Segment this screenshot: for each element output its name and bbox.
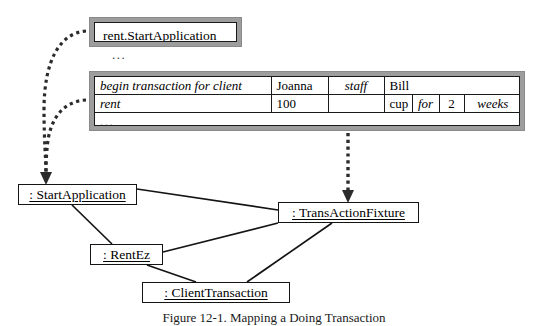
- object-rentez[interactable]: : RentEz: [90, 244, 163, 265]
- figure-caption: Figure 12-1. Mapping a Doing Transaction: [0, 310, 548, 326]
- cell-bill[interactable]: Bill: [384, 77, 520, 95]
- cell-2[interactable]: 2: [439, 95, 464, 113]
- mapping-arrow-pagename-to-startapplication: [44, 31, 86, 176]
- wiki-page-name-panel-inner: rent.StartApplication: [94, 22, 237, 42]
- figure-caption-label: Figure 12-1.: [162, 310, 226, 325]
- object-startapplication-label: : StartApplication: [23, 187, 131, 203]
- cell-rent[interactable]: rent: [95, 95, 271, 113]
- wiki-page-name-text: rent.StartApplication: [95, 23, 236, 42]
- cell-empty[interactable]: [328, 95, 384, 113]
- association-rentez-clienttransaction: [147, 265, 196, 282]
- fit-table-body: begin transaction for clientJoannastaffB…: [95, 77, 520, 126]
- cell-staff[interactable]: staff: [328, 77, 384, 95]
- cell-for[interactable]: for: [412, 95, 439, 113]
- association-startapplication-rentez: [72, 205, 112, 244]
- cell-cup[interactable]: cup: [384, 95, 412, 113]
- row-ellipsis: ...: [95, 113, 520, 127]
- object-rentez-label: : RentEz: [97, 247, 156, 263]
- row-begin-transaction: begin transaction for clientJoannastaffB…: [95, 77, 520, 95]
- cell-joanna[interactable]: Joanna: [271, 77, 328, 95]
- object-transactionfixture[interactable]: : TransActionFixture: [278, 202, 419, 223]
- fit-table-panel-inner: begin transaction for clientJoannastaffB…: [94, 76, 520, 126]
- wiki-page-name-panel[interactable]: rent.StartApplication: [89, 17, 242, 47]
- fit-table[interactable]: begin transaction for clientJoannastaffB…: [95, 77, 520, 126]
- object-transactionfixture-label: : TransActionFixture: [286, 205, 411, 221]
- association-startapplication-transactionfixture: [137, 189, 278, 210]
- fit-table-panel[interactable]: begin transaction for clientJoannastaffB…: [89, 71, 525, 131]
- cell-table-ellipsis[interactable]: ...: [95, 113, 520, 127]
- row-rent: rent100cupfor2weeks: [95, 95, 520, 113]
- association-transactionfixture-clienttransaction: [247, 223, 332, 282]
- panel-gap-ellipsis: ...: [112, 48, 126, 62]
- cell-begin-transaction-for-client[interactable]: begin transaction for client: [95, 77, 271, 95]
- object-clienttransaction[interactable]: : ClientTransaction: [142, 282, 290, 303]
- object-clienttransaction-label: : ClientTransaction: [158, 285, 273, 301]
- figure-caption-text: Mapping a Doing Transaction: [230, 310, 386, 325]
- cell-100[interactable]: 100: [271, 95, 328, 113]
- object-startapplication[interactable]: : StartApplication: [18, 184, 137, 205]
- mapping-arrow-table-to-startapplication: [46, 100, 86, 176]
- cell-weeks[interactable]: weeks: [464, 95, 520, 113]
- association-rentez-transactionfixture: [163, 223, 278, 252]
